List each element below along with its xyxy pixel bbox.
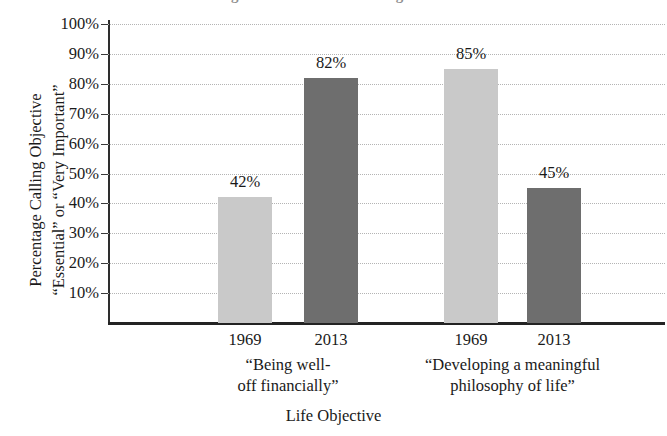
gridline — [108, 84, 665, 85]
bar-1969-group-0[interactable] — [218, 197, 272, 323]
x-axis-year-label: 1969 — [455, 330, 488, 350]
y-axis-tick-label: 20% — [39, 253, 99, 273]
gridline — [108, 233, 665, 234]
y-axis-tick-label: 80% — [39, 74, 99, 94]
x-axis-group-label: “Being well-off financially” — [238, 354, 339, 396]
gridline — [108, 174, 665, 175]
gridline — [108, 263, 665, 264]
y-axis-tick — [101, 24, 108, 25]
y-axis-tick-label: 50% — [39, 164, 99, 184]
y-axis-tick-label: 40% — [39, 193, 99, 213]
x-axis-group-label: “Developing a meaningfulphilosophy of li… — [425, 354, 600, 396]
x-axis-group-label-line: “Developing a meaningful — [425, 354, 600, 375]
y-axis-tick — [101, 263, 108, 264]
x-axis-year-label: 2013 — [538, 330, 571, 350]
y-axis-tick — [101, 54, 108, 55]
bar-2013-group-0[interactable] — [304, 78, 358, 323]
x-axis-year-label: 2013 — [315, 330, 348, 350]
x-axis-group-label-line: off financially” — [238, 375, 339, 396]
y-axis-tick-label: 10% — [39, 283, 99, 303]
gridline — [108, 24, 665, 25]
bar-value-label: 82% — [316, 53, 346, 73]
bar-2013-group-1[interactable] — [527, 188, 581, 323]
gridline — [108, 203, 665, 204]
y-axis-tick-label: 30% — [39, 223, 99, 243]
x-axis-title: Life Objective — [0, 406, 667, 426]
gridline — [108, 114, 665, 115]
gridline — [108, 293, 665, 294]
gridline — [108, 54, 665, 55]
gridline — [108, 144, 665, 145]
x-axis-group-label-line: philosophy of life” — [425, 375, 600, 396]
bar-1969-group-1[interactable] — [444, 69, 498, 323]
y-axis-tick-label: 100% — [39, 14, 99, 34]
y-axis-tick — [101, 293, 108, 294]
x-axis-year-label: 1969 — [229, 330, 262, 350]
y-axis-tick — [101, 203, 108, 204]
y-axis-tick — [101, 174, 108, 175]
y-axis-tick-label: 70% — [39, 104, 99, 124]
bar-chart-figure: Changes in Life Goals of College Student… — [0, 0, 667, 436]
chart-title: Changes in Life Goals of College Student… — [0, 0, 667, 3]
y-axis-tick — [101, 84, 108, 85]
x-axis-group-label-line: “Being well- — [238, 354, 339, 375]
plot-area: 100%90%80%70%60%50%40%30%20%10% — [108, 24, 665, 323]
y-axis-tick-label: 90% — [39, 44, 99, 64]
y-axis-tick — [101, 144, 108, 145]
y-axis-tick — [101, 233, 108, 234]
bar-value-label: 45% — [539, 163, 569, 183]
y-axis-tick-label: 60% — [39, 134, 99, 154]
bar-value-label: 42% — [230, 172, 260, 192]
y-axis-tick — [101, 114, 108, 115]
bar-value-label: 85% — [456, 44, 486, 64]
